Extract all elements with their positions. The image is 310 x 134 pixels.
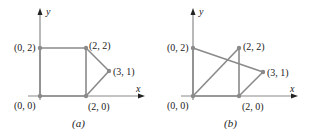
x-axis-arrow-icon <box>138 94 145 99</box>
y-axis-arrow-icon <box>191 8 196 15</box>
y-axis-label: y <box>198 6 204 17</box>
edges-a <box>40 48 109 96</box>
vertex-0-0 <box>191 94 195 98</box>
vertices-b <box>191 46 265 98</box>
x-axis-label: x <box>135 83 141 94</box>
vertex-2-2 <box>237 46 241 50</box>
label-0-0: (0, 0) <box>167 100 189 112</box>
vertex-0-0 <box>38 94 42 98</box>
label-3-1: (3, 1) <box>267 67 289 79</box>
caption-b: (b) <box>224 117 237 130</box>
label-0-2: (0, 2) <box>167 42 189 54</box>
vertex-2-2 <box>84 46 88 50</box>
y-axis-label: y <box>45 6 51 17</box>
diagram-canvas: y x (0, 0) (0, 2) (2, 2) (3, 1) (2, 0) (… <box>0 0 310 134</box>
y-axis-arrow-icon <box>38 8 43 15</box>
vertex-2-0 <box>237 94 241 98</box>
vertex-0-2 <box>38 46 42 50</box>
edges-b <box>193 48 263 96</box>
x-axis-label: x <box>289 83 295 94</box>
label-0-0: (0, 0) <box>14 100 36 112</box>
label-0-2: (0, 2) <box>14 42 36 54</box>
label-2-2: (2, 2) <box>89 40 111 52</box>
vertex-3-1 <box>107 69 111 73</box>
x-axis-arrow-icon <box>291 94 298 99</box>
label-2-2: (2, 2) <box>243 41 265 53</box>
label-2-0: (2, 0) <box>242 101 264 113</box>
vertex-3-1 <box>261 70 265 74</box>
edge <box>86 48 109 71</box>
caption-a: (a) <box>72 117 85 130</box>
label-3-1: (3, 1) <box>113 66 135 78</box>
edge <box>86 71 109 96</box>
vertex-0-2 <box>191 46 195 50</box>
edge <box>239 72 263 96</box>
label-2-0: (2, 0) <box>88 101 110 113</box>
vertices-a <box>38 46 111 98</box>
panel-a: y x (0, 0) (0, 2) (2, 2) (3, 1) (2, 0) (… <box>14 6 145 130</box>
panel-b: y x (0, 0) (0, 2) (2, 2) (3, 1) (2, 0) (… <box>167 6 298 130</box>
vertex-2-0 <box>84 94 88 98</box>
